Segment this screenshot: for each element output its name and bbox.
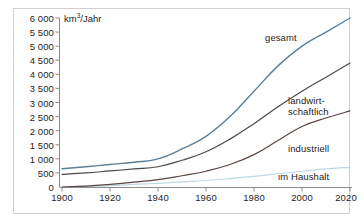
chart-plot-area: km3/Jahr 6 000 5 500 5 000 4 500 4 000 3… <box>0 0 364 222</box>
series-line-im-haushalt <box>62 167 350 187</box>
x-tick-marks <box>62 188 350 192</box>
series-paths <box>62 18 350 187</box>
y-tick-marks <box>56 18 60 173</box>
series-line-gesamt <box>62 18 350 169</box>
series-line-landwirtschaftlich <box>62 63 350 174</box>
series-line-industriell <box>62 111 350 187</box>
chart-svg <box>0 0 364 222</box>
chart-figure: km3/Jahr 6 000 5 500 5 000 4 500 4 000 3… <box>0 0 364 222</box>
